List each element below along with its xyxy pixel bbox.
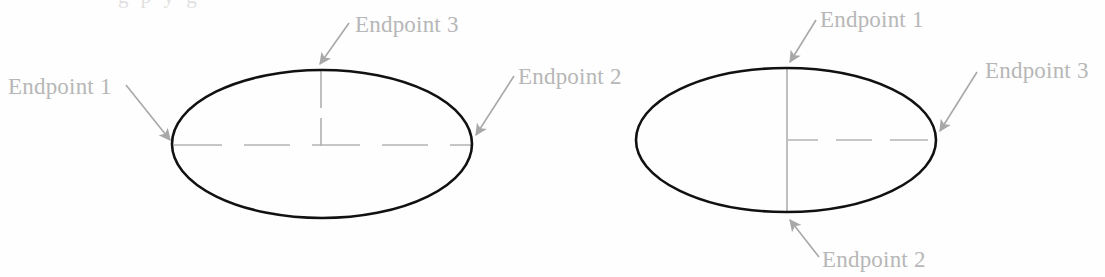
left-endpoint-3-leader: [320, 23, 349, 64]
left-ellipse-outline: [172, 70, 472, 218]
ellipse-diagram-graphic: [0, 0, 1105, 277]
label-right-endpoint-3: Endpoint 3: [985, 59, 1089, 82]
label-left-endpoint-1: Endpoint 1: [8, 75, 112, 98]
right-endpoint-3-leader: [940, 72, 977, 131]
label-left-endpoint-3: Endpoint 3: [355, 13, 459, 36]
left-endpoint-2-leader: [476, 76, 514, 135]
right-endpoint-2-leader: [790, 220, 819, 257]
label-right-endpoint-2: Endpoint 2: [822, 248, 926, 271]
right-ellipse-group: [636, 20, 977, 257]
label-right-endpoint-1: Endpoint 1: [820, 8, 924, 31]
left-ellipse-group: [126, 23, 514, 218]
left-endpoint-1-leader: [126, 85, 170, 140]
label-left-endpoint-2: Endpoint 2: [518, 65, 622, 88]
figure-canvas: g p y g: [0, 0, 1105, 277]
right-endpoint-1-leader: [790, 20, 816, 62]
